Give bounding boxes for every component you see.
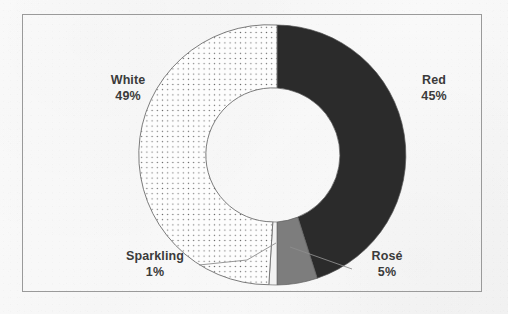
donut-chart-graphic [0,0,508,314]
slice-label-red-name: Red [402,72,466,88]
slice-label-white: White 49% [92,72,164,104]
slice-label-rose-value: 5% [356,264,418,280]
slice-label-white-value: 49% [92,88,164,104]
slice-label-red: Red 45% [402,72,466,104]
slice-label-white-name: White [92,72,164,88]
slice-label-rose-name: Rosé [356,248,418,264]
slice-label-red-value: 45% [402,88,466,104]
slice-label-sparkling-value: 1% [112,264,198,280]
slice-label-sparkling: Sparkling 1% [112,248,198,280]
donut-chart-figure: Red 45% White 49% Rosé 5% Sparkling 1% [0,0,508,314]
slice-white [139,25,277,285]
slice-label-sparkling-name: Sparkling [112,248,198,264]
slice-label-rose: Rosé 5% [356,248,418,280]
